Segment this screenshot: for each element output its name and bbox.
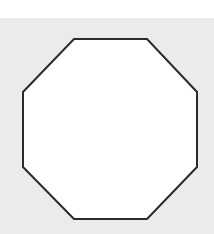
octagon-shape xyxy=(23,39,197,219)
octagon-diagram xyxy=(0,0,214,234)
